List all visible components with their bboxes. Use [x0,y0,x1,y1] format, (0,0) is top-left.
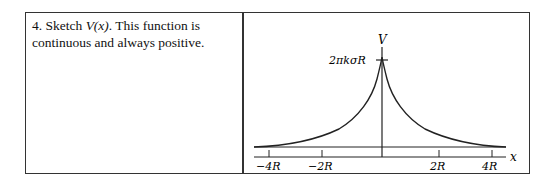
tick-label-p2: 2R [429,160,445,173]
question-text: 4. Sketch V(x). This function is continu… [32,17,237,51]
v-axis-label: V [378,33,388,47]
question-function: V(x) [86,18,109,33]
x-axis-label: x [510,150,517,164]
tick-label-m2: −2R [308,160,333,173]
question-number: 4. [32,18,42,33]
potential-graph: V 2πkσR x −4R −2R 2R 4R [244,13,529,173]
potential-curve [254,57,506,147]
question-table: 4. Sketch V(x). This function is continu… [25,12,530,174]
sketch-plot: V 2πkσR x −4R −2R 2R 4R [244,13,529,173]
tick-label-m4: −4R [256,160,281,173]
question-prefix: Sketch [46,18,83,33]
tick-label-p4: 4R [481,160,497,173]
peak-label: 2πkσR [328,54,366,67]
